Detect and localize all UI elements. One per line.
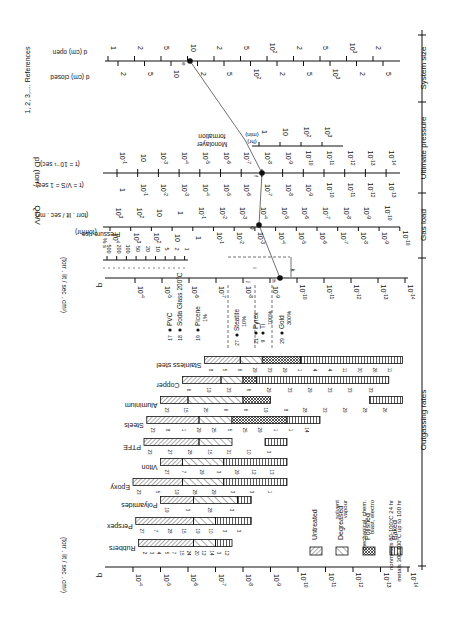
- reference-number: 6: [246, 389, 251, 392]
- pressure-rise-tick-label: 10-6: [319, 232, 327, 244]
- point-material-pvc: PVC: [166, 312, 173, 326]
- reference-number: 3: [266, 451, 271, 454]
- point-material-gold: Gold: [278, 315, 285, 329]
- pd-tau1-tick-label: 1: [119, 188, 126, 192]
- reference-number: 26: [372, 367, 377, 373]
- legend-note: mechanical, chem.: [361, 500, 367, 550]
- qd-upper-tick-label: 10-14: [407, 285, 415, 300]
- reference-number: 30: [357, 367, 362, 373]
- qd-axis-title: q: [96, 573, 105, 577]
- reference-number: 1: [288, 429, 293, 432]
- qdv-tick-label: 10-7: [322, 207, 330, 219]
- pd-tau2-tick-label: 10-10: [305, 151, 313, 166]
- d-closed-tick-label: 5: [385, 72, 392, 76]
- legend-note: nonmetals 80-100°C 24 hr: [388, 500, 394, 570]
- reference-number: 8: [165, 429, 170, 432]
- pd-tau2-tick-label: 10-13: [367, 151, 375, 166]
- reference-number: 6: [237, 369, 242, 372]
- monolayer-tick-label: 10: [282, 128, 289, 136]
- pd-tau2-tick-label: 10-7: [243, 152, 251, 164]
- category-label-copper: Copper: [156, 381, 180, 389]
- qd-tick-label: 10-6: [190, 574, 198, 586]
- reference-number: 3: [229, 509, 234, 512]
- qd-axis-unit: (torr . lit / sec . cm²): [60, 537, 68, 593]
- example-line: [190, 61, 280, 278]
- reference-number: 29: [252, 367, 257, 373]
- reference-number: 3: [249, 491, 254, 494]
- reference-number: 29: [266, 387, 271, 393]
- reference-number: 15: [181, 528, 186, 534]
- pct-s-tick: 5: [164, 247, 170, 250]
- example-point-label: g: [250, 226, 256, 229]
- pd-tau2-tick-label: 10-12: [347, 151, 355, 166]
- reference-number: 2: [142, 552, 147, 555]
- qd-upper-tick-label: 10-10: [299, 285, 307, 300]
- pressure-rise-tick-label: 10-8: [360, 232, 368, 244]
- reference-number: 14: [304, 427, 309, 433]
- qd-upper-tick-label: 10-5: [164, 286, 172, 298]
- reference-number: 4: [156, 552, 161, 555]
- reference-number: 15: [179, 550, 184, 556]
- reference-number: 8: [208, 369, 213, 372]
- bar-segment-degreased: [183, 479, 224, 486]
- qdv-tick-label: 103: [115, 208, 123, 219]
- reference-number: 19: [263, 407, 268, 413]
- bar-segment-degreased: [194, 518, 216, 525]
- category-label-stainless-steel: Stainless steel: [156, 362, 202, 369]
- qdv-tick-label: 1: [177, 211, 184, 215]
- reference-number: 3: [216, 552, 221, 555]
- reference-number: 3: [236, 530, 241, 533]
- section-outgassing-label: Outgassing rates: [419, 390, 428, 450]
- pd-tau2-tick-label: 10-4: [181, 152, 189, 164]
- qd-tick-label: 10-12: [355, 573, 363, 588]
- bar-segment-polished: [243, 377, 257, 384]
- qd-upper-tick-label: 10-9: [272, 286, 280, 298]
- pd-tau1-tick-label: 10-9: [305, 184, 313, 196]
- point-material-ref: 17: [167, 335, 173, 341]
- reference-number: 28: [362, 407, 367, 413]
- reference-number: 3: [222, 530, 227, 533]
- point-material-ref: 18: [177, 335, 183, 341]
- reference-number: 33: [226, 387, 231, 393]
- pd-tau1-tick-label: 10-13: [388, 183, 396, 198]
- nomogram-svg: 10-410-510-610-710-810-910-1010-1110-121…: [0, 0, 453, 617]
- reference-number: 3: [216, 471, 221, 474]
- reference-number: 5: [155, 491, 160, 494]
- reference-number: 11: [342, 368, 347, 373]
- pd-tau2-tick-label: 10-11: [326, 151, 334, 166]
- point-material-pct: 1%: [202, 314, 208, 322]
- reference-number: 15: [183, 407, 188, 413]
- reference-number: 1: [181, 429, 186, 432]
- bar-segment-untreated: [147, 417, 199, 424]
- reference-number: 10: [208, 528, 213, 534]
- legend-note: solvent: [334, 500, 340, 519]
- pressure-rise-tick-label: 10-3: [257, 232, 265, 244]
- bar-segment-untreated: [161, 497, 194, 504]
- bar-segment-untreated: [183, 377, 222, 384]
- qd-upper-tick-label: 10-6: [191, 286, 199, 298]
- d-open-tick-label: 103: [349, 43, 357, 54]
- reference-number: 27: [167, 449, 172, 455]
- qd-upper-tick-label: 10-7: [218, 286, 226, 298]
- nomogram-chart: 10-410-510-610-710-810-910-1010-1110-121…: [0, 0, 453, 617]
- reference-number: 19: [164, 507, 169, 513]
- d-open-tick-label: 2: [137, 46, 144, 50]
- pd-tau2-tick-label: 10-6: [223, 152, 231, 164]
- category-label-perspex: Perspex: [107, 522, 133, 530]
- reference-number: 15: [207, 449, 212, 455]
- qd-upper-tick-label: 10-8: [245, 286, 253, 298]
- bar-segment-polished: [243, 397, 271, 404]
- monolayer-hr: (hr): [247, 139, 256, 145]
- pressure-rise-tick-label: 10-10: [402, 231, 410, 246]
- pd-tau1-tick-label: 10-4: [202, 184, 210, 196]
- reference-number: 19: [195, 528, 200, 534]
- reference-number: 5: [227, 429, 232, 432]
- pd-tau2-tick-label: 10-14: [388, 151, 396, 166]
- reference-number: 27: [139, 528, 144, 534]
- pct-s-tick: 2: [174, 247, 180, 250]
- point-material-dot: [261, 331, 264, 334]
- reference-number: 7: [153, 530, 158, 533]
- bar-segment-degreased: [199, 439, 232, 446]
- reference-number: 29: [342, 407, 347, 413]
- monolayer-tick-label: 1: [261, 130, 268, 134]
